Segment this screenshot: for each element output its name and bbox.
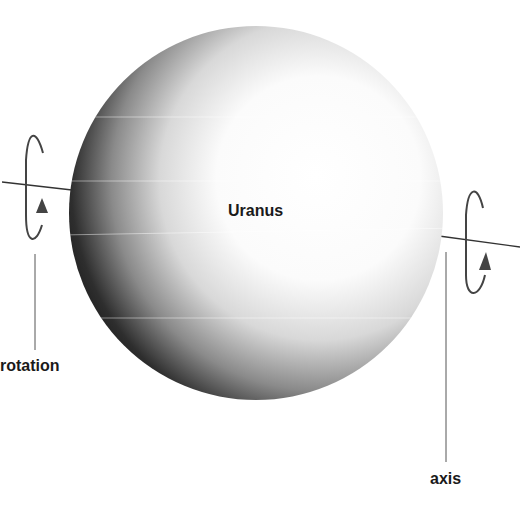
rotation-label: rotation: [0, 357, 60, 375]
axis-label: axis: [430, 470, 461, 488]
axis-line-right: [439, 236, 520, 247]
planet-label: Uranus: [228, 202, 283, 220]
uranus-diagram: [0, 0, 520, 505]
axis-line-left: [2, 182, 72, 190]
